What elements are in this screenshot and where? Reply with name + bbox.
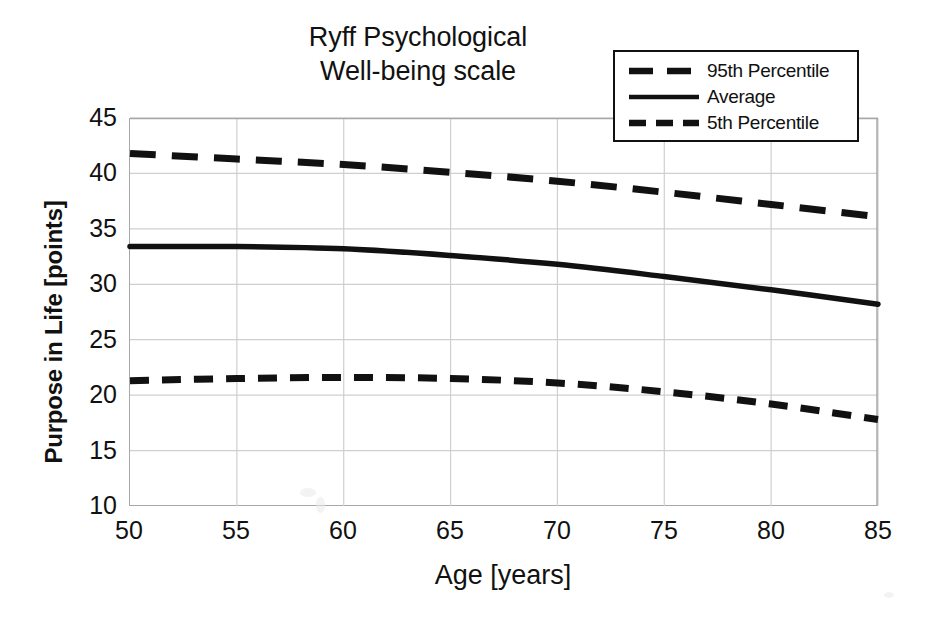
- grid-vertical: [237, 118, 878, 506]
- chart-title-line-2: Well-being scale: [238, 54, 598, 88]
- chart-figure: Ryff Psychological Well-being scale Purp…: [0, 0, 932, 633]
- chart-legend: 95th Percentile Average 5th Percentile: [613, 50, 859, 142]
- x-tick-label-70: 70: [522, 518, 592, 543]
- y-tick-label-35: 35: [55, 216, 117, 241]
- y-tick-label-45: 45: [55, 105, 117, 130]
- y-tick-label-30: 30: [55, 271, 117, 296]
- legend-label-average: Average: [707, 86, 775, 108]
- y-tick-label-15: 15: [55, 438, 117, 463]
- legend-label-5th-percentile: 5th Percentile: [707, 112, 819, 134]
- x-axis-title: Age [years]: [129, 560, 877, 591]
- y-tick-label-10: 10: [55, 493, 117, 518]
- legend-item-5th-percentile[interactable]: 5th Percentile: [615, 110, 857, 136]
- legend-item-95th-percentile[interactable]: 95th Percentile: [615, 58, 857, 84]
- x-tick-label-55: 55: [201, 518, 271, 543]
- scan-speck: [884, 592, 894, 598]
- x-tick-label-75: 75: [629, 518, 699, 543]
- chart-title-line-1: Ryff Psychological: [238, 20, 598, 54]
- x-tick-label-85: 85: [843, 518, 913, 543]
- chart-title: Ryff Psychological Well-being scale: [238, 20, 598, 88]
- solid-line-icon: [627, 87, 701, 107]
- y-tick-label-20: 20: [55, 382, 117, 407]
- dash-line-icon: [627, 113, 701, 133]
- scan-speck: [300, 488, 316, 497]
- series-line-95th-percentile: [130, 153, 878, 216]
- plot-canvas: [130, 118, 878, 506]
- y-tick-label-25: 25: [55, 327, 117, 352]
- x-tick-label-60: 60: [308, 518, 378, 543]
- grid-horizontal: [130, 118, 878, 451]
- y-tick-label-40: 40: [55, 160, 117, 185]
- series-line-average: [130, 246, 878, 304]
- scan-speck: [316, 497, 325, 513]
- plot-area: [129, 118, 877, 506]
- long-dash-line-icon: [627, 61, 701, 81]
- legend-item-average[interactable]: Average: [615, 84, 857, 110]
- series-line-5th-percentile: [130, 377, 878, 419]
- x-tick-label-50: 50: [94, 518, 164, 543]
- legend-label-95th-percentile: 95th Percentile: [707, 60, 829, 82]
- x-tick-label-65: 65: [415, 518, 485, 543]
- x-tick-label-80: 80: [736, 518, 806, 543]
